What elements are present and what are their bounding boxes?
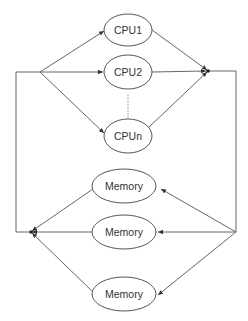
edge-fork-mem1 (161, 189, 236, 232)
cpun-label: CPUn (114, 130, 142, 142)
cpu-memory-diagram: CPU1 CPU2 CPUn Memory Memory Memory (0, 0, 248, 321)
node-memory-3: Memory (92, 277, 156, 311)
cpu2-label: CPU2 (114, 66, 142, 78)
edge-fork-mem3 (158, 232, 236, 295)
memory-1-label: Memory (105, 180, 144, 192)
node-cpu2: CPU2 (104, 55, 152, 89)
edge-fork-cpu1 (40, 31, 104, 72)
cpu-join-point (206, 69, 210, 73)
edge-cpu2-join (152, 71, 206, 72)
edge-mem1-join (32, 189, 93, 231)
cpu1-label: CPU1 (114, 24, 142, 36)
edge-mem3-join (32, 233, 93, 292)
memory-2-label: Memory (105, 226, 144, 238)
node-cpun: CPUn (104, 119, 152, 153)
node-cpu1: CPU1 (104, 14, 152, 46)
left-return-line (16, 72, 40, 232)
edge-fork-cpun (40, 72, 104, 133)
memory-3-label: Memory (105, 288, 144, 300)
edge-cpun-join (148, 72, 207, 128)
edge-cpu1-join (152, 30, 207, 70)
mem-join-point (29, 230, 33, 234)
node-memory-2: Memory (92, 215, 156, 249)
node-memory-1: Memory (92, 169, 156, 203)
right-rail-line (208, 71, 236, 232)
